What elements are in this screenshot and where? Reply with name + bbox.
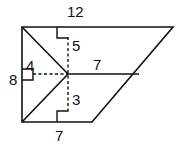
- label-lower-vertical: 3: [72, 91, 80, 108]
- label-upper-vertical: 5: [72, 37, 80, 54]
- diagonal-lower: [22, 74, 68, 122]
- right-angle-marker-top: [57, 27, 68, 38]
- label-middle-horizontal: 7: [93, 56, 101, 73]
- label-bottom: 7: [55, 127, 63, 144]
- label-top: 12: [67, 3, 84, 20]
- geometry-diagram: 12 5 7 4 8 3 7: [0, 0, 177, 148]
- label-left-side: 8: [9, 71, 17, 88]
- right-angle-marker-bottom: [57, 111, 68, 122]
- label-left-short: 4: [26, 57, 34, 74]
